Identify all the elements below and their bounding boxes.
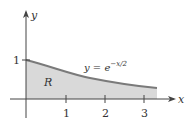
- y-axis-label: y: [30, 9, 38, 22]
- region-label: R: [43, 76, 52, 89]
- x-tick-label-1: 1: [63, 107, 70, 120]
- y-tick-label-1: 1: [13, 54, 20, 67]
- x-axis-label: x: [178, 93, 185, 106]
- x-tick-label-2: 2: [102, 107, 109, 120]
- graph: 1 2 3 1 x y R y = e−x/2: [0, 0, 189, 127]
- function-label: y = e−x/2: [83, 60, 127, 73]
- function-exponent: −x/2: [110, 60, 127, 68]
- x-tick-label-3: 3: [141, 107, 148, 120]
